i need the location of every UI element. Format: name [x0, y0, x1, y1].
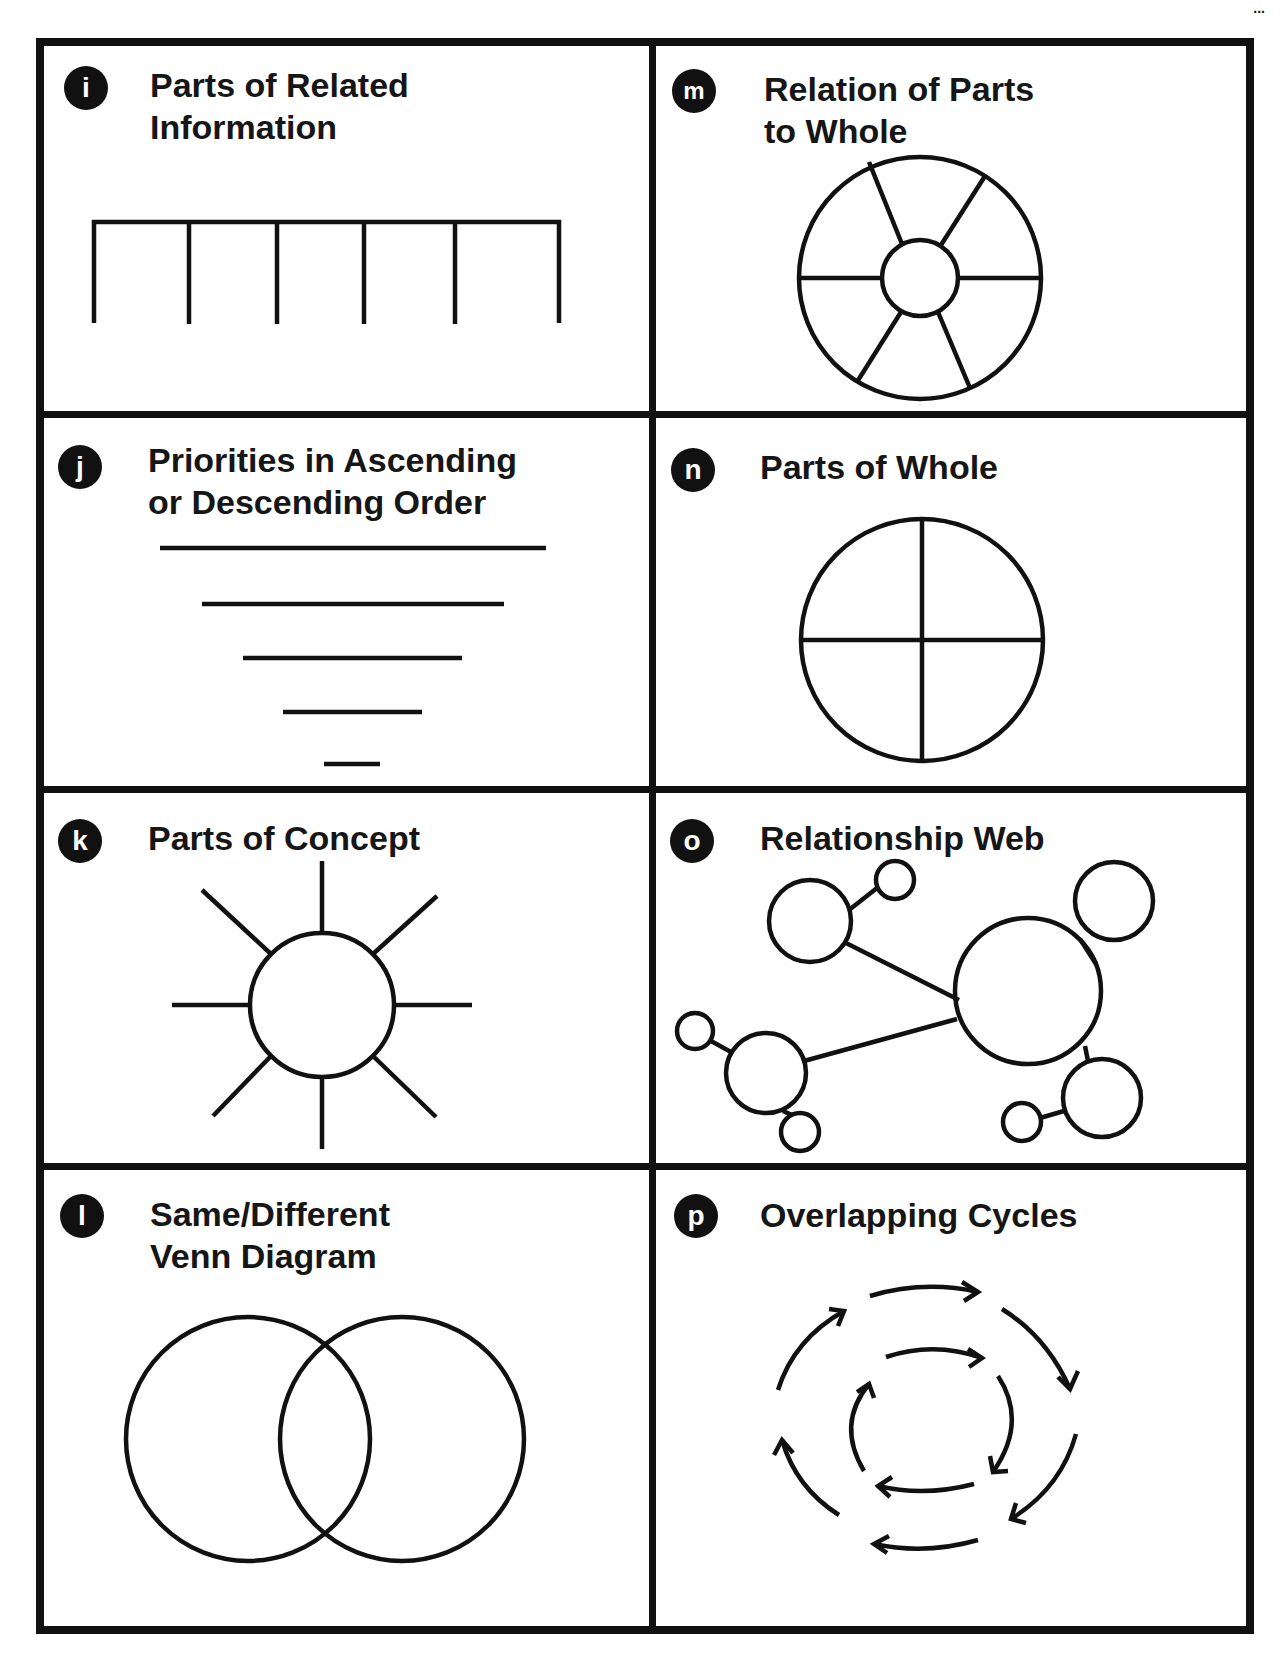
organizer-grid: i Parts of Related Information m Relatio…: [36, 38, 1254, 1634]
grid-vertical-divider: [649, 46, 656, 1626]
quartered-circle-diagram: [656, 418, 1254, 786]
concentric-arrow-cycles-diagram: [656, 1170, 1254, 1626]
organizer-cell-p: p Overlapping Cycles: [656, 1170, 1254, 1626]
descending-lines-diagram: [44, 418, 649, 786]
bubble-web-diagram: [656, 793, 1254, 1163]
organizer-cell-l: l Same/Different Venn Diagram: [44, 1170, 649, 1626]
organizer-cell-m: m Relation of Parts to Whole: [656, 46, 1254, 411]
organizer-cell-o: o Relationship Web: [656, 793, 1254, 1163]
page-corner-mark: ...: [1253, 0, 1265, 16]
organizer-cell-n: n Parts of Whole: [656, 418, 1254, 786]
grid-row-divider-2: [44, 786, 1246, 793]
venn-two-circles-diagram: [44, 1170, 649, 1626]
comb-brackets-diagram: [44, 46, 649, 411]
organizer-cell-i: i Parts of Related Information: [44, 46, 649, 411]
organizer-cell-j: j Priorities in Ascending or Descending …: [44, 418, 649, 786]
wheel-with-hub-diagram: [656, 46, 1254, 411]
sun-rays-diagram: [44, 793, 649, 1163]
grid-row-divider-1: [44, 411, 1246, 418]
organizer-cell-k: k Parts of Concept: [44, 793, 649, 1163]
grid-row-divider-3: [44, 1163, 1246, 1170]
